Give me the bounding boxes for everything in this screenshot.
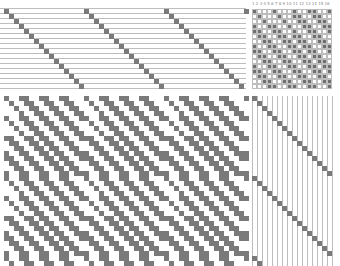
drawdown-cell — [9, 261, 14, 266]
tieup-cell[interactable] — [327, 84, 332, 89]
drawdown-cell — [89, 261, 94, 266]
treadling-line — [267, 96, 268, 266]
threading-mark — [239, 84, 244, 89]
treadling-line — [297, 96, 298, 266]
threading-mark — [159, 84, 164, 89]
drawdown-cell — [209, 261, 214, 266]
drawdown-cell — [244, 156, 249, 161]
drawdown-cell — [244, 116, 249, 121]
threading-line — [0, 73, 246, 74]
drawdown-cell — [244, 96, 249, 101]
drawdown-cell — [169, 261, 174, 266]
drawdown-cell — [189, 261, 194, 266]
threading-line — [0, 83, 246, 84]
treadling-line — [287, 96, 288, 266]
tieup-panel: 1 2 3 4 5 6 7 8 9 10 11 12 13 14 15 16 — [250, 0, 340, 90]
drawdown-cell — [244, 136, 249, 141]
drawdown-cell — [244, 216, 249, 221]
threading-line — [0, 68, 246, 69]
drawdown-cell — [69, 261, 74, 266]
treadling-line — [282, 96, 283, 266]
drawdown-cell — [49, 261, 54, 266]
treadling-line — [252, 96, 253, 266]
treadling-panel — [250, 96, 340, 266]
threading-line — [0, 8, 246, 9]
drawdown-cell — [229, 261, 234, 266]
threading-line — [0, 63, 246, 64]
drawdown-cell — [244, 196, 249, 201]
treadling-line — [262, 96, 263, 266]
drawdown-cell — [149, 261, 154, 266]
treadling-line — [307, 96, 308, 266]
drawdown-panel — [0, 96, 246, 266]
drawdown-cell — [244, 176, 249, 181]
treadling-mark — [327, 251, 332, 256]
treadling-line — [327, 96, 328, 266]
treadling-mark — [327, 171, 332, 176]
threading-line — [0, 18, 246, 19]
drawdown-cell — [29, 261, 34, 266]
treadling-mark — [257, 261, 262, 266]
treadling-line — [272, 96, 273, 266]
tieup-header-numbers: 1 2 3 4 5 6 7 8 9 10 11 12 13 14 15 16 — [252, 1, 330, 6]
treadling-line — [302, 96, 303, 266]
drawdown-cell — [109, 261, 114, 266]
treadling-line — [292, 96, 293, 266]
threading-mark — [244, 9, 249, 14]
threading-line — [0, 88, 246, 89]
threading-mark — [79, 84, 84, 89]
threading-panel — [0, 8, 246, 90]
threading-line — [0, 23, 246, 24]
threading-line — [0, 33, 246, 34]
threading-line — [0, 28, 246, 29]
drawdown-cell — [244, 256, 249, 261]
threading-line — [0, 78, 246, 79]
treadling-line — [332, 96, 333, 266]
treadling-line — [322, 96, 323, 266]
drawdown-cell — [129, 261, 134, 266]
drawdown-cell — [244, 236, 249, 241]
threading-line — [0, 13, 246, 14]
